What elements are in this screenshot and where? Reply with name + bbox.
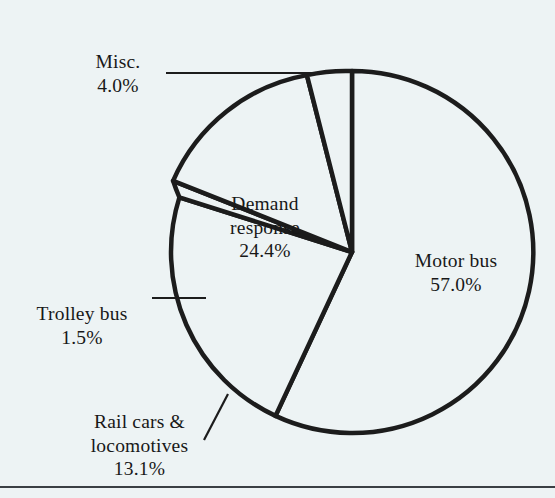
slice-label-rail-cars-name: Rail cars & locomotives — [91, 411, 189, 456]
slice-label-trolley-bus-name: Trolley bus — [37, 303, 128, 324]
slice-label-trolley-bus: Trolley bus 1.5% — [2, 278, 162, 373]
slice-label-motor-bus-name: Motor bus — [415, 250, 498, 271]
slice-label-misc-percent: 4.0% — [58, 74, 178, 98]
slice-label-misc-name: Misc. — [96, 51, 141, 72]
slice-label-demand-response: Demand response 24.4% — [200, 168, 330, 287]
slice-label-trolley-bus-percent: 1.5% — [2, 326, 162, 350]
slice-label-demand-response-percent: 24.4% — [200, 239, 330, 263]
slice-label-motor-bus-percent: 57.0% — [386, 273, 526, 297]
footer-rule — [0, 486, 555, 488]
slice-label-demand-response-name: Demand response — [230, 193, 300, 238]
slice-label-rail-cars: Rail cars & locomotives 13.1% — [52, 386, 227, 498]
pie-chart-figure: Misc. 4.0% Demand response 24.4% Motor b… — [0, 0, 555, 498]
slice-label-misc: Misc. 4.0% — [58, 26, 178, 121]
slice-label-rail-cars-percent: 13.1% — [52, 457, 227, 481]
slice-label-motor-bus: Motor bus 57.0% — [386, 225, 526, 320]
